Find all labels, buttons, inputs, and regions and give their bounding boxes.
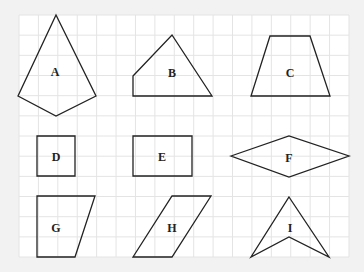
shape-label-g: G	[51, 221, 60, 235]
grid-figure: A B C D E F G H I	[0, 0, 364, 272]
shape-label-a: A	[51, 65, 60, 79]
shape-label-h: H	[167, 221, 177, 235]
shape-label-i: I	[288, 221, 293, 235]
shape-label-b: B	[168, 66, 176, 80]
shape-label-e: E	[158, 150, 166, 164]
shape-label-d: D	[52, 150, 61, 164]
shape-label-c: C	[286, 66, 295, 80]
shape-label-f: F	[285, 151, 292, 165]
